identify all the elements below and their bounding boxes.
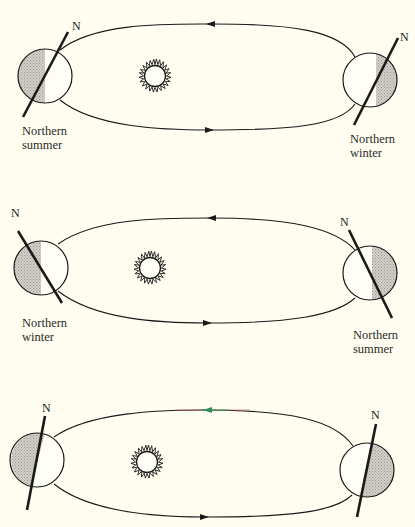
earth-right (340, 424, 394, 517)
night-side-shading (18, 49, 45, 103)
season-label-line1: Northern (350, 132, 395, 146)
sun-icon (139, 59, 171, 92)
pole-label-north: N (11, 207, 20, 219)
pole-label-north: N (371, 409, 380, 421)
pole-label-north: N (42, 402, 51, 414)
panel-1 (18, 21, 403, 133)
earth-right-winter (343, 38, 403, 125)
earth-left (10, 416, 64, 510)
season-label-northern-summer: Northern summer (22, 124, 67, 152)
orbit-arrow-top-icon (206, 21, 215, 27)
season-label-line1: Northern (22, 316, 67, 330)
night-side-shading (14, 241, 41, 295)
season-label-line2: summer (353, 342, 398, 356)
orbit-arrow-bottom-icon (203, 320, 212, 326)
orbit-path (54, 410, 353, 517)
orbit-diagram (0, 0, 415, 527)
pole-label-north: N (340, 216, 349, 228)
orbit-arrow-top-icon (207, 215, 216, 221)
night-side-shading (372, 246, 399, 300)
season-label-northern-winter: Northern winter (350, 132, 395, 160)
orbit-path (58, 218, 355, 323)
season-label-line2: winter (22, 330, 67, 344)
season-label-line2: summer (22, 138, 67, 152)
season-label-northern-summer: Northern summer (353, 328, 398, 356)
sun-icon (134, 251, 166, 284)
pole-label-north: N (72, 20, 81, 32)
panel-2 (14, 215, 399, 326)
pole-label-north: N (400, 31, 409, 43)
panel-3 (10, 407, 394, 520)
earth-right-summer (343, 230, 399, 318)
orbit-arrow-top-icon (203, 407, 212, 413)
sun-icon (131, 445, 163, 478)
season-label-line1: Northern (22, 124, 67, 138)
season-label-line2: winter (350, 146, 395, 160)
season-label-line1: Northern (353, 328, 398, 342)
earth-left-summer (18, 32, 72, 117)
season-label-northern-winter: Northern winter (22, 316, 67, 344)
orbit-path (60, 24, 355, 130)
orbit-arrow-bottom-icon (200, 514, 209, 520)
orbit-arrow-bottom-icon (205, 127, 214, 133)
